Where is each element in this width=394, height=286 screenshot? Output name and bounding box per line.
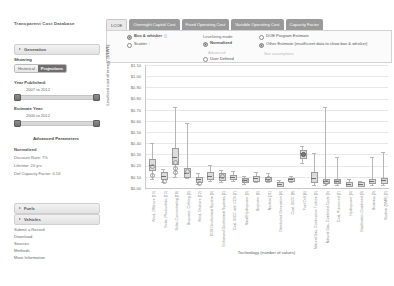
slider-track[interactable]: [14, 95, 100, 100]
accordion-vehicles-label: Vehicles: [24, 217, 41, 222]
whisker-cap: [254, 172, 258, 173]
y-axis-tick-label: $0.30: [116, 152, 141, 157]
slider-track[interactable]: [14, 121, 100, 126]
showing-option-historical[interactable]: Historical: [15, 65, 38, 73]
whisker-cap: [161, 169, 165, 170]
year-published-slider[interactable]: [14, 93, 98, 99]
estimate-year-slider[interactable]: [14, 119, 98, 125]
sidebar-accordion-generation[interactable]: Generation: [14, 44, 100, 55]
plot-type-group: Box & whisker ◫ Scatter ⁞: [127, 34, 167, 51]
y-axis-tick-label: $0.20: [116, 163, 141, 168]
y-axis-tick-label: $0.10: [116, 175, 141, 180]
options-panel: Box & whisker ◫ Scatter ⁞ Levelizing mod…: [106, 30, 392, 63]
whisker-cap: [231, 171, 235, 172]
whisker-cap: [335, 157, 339, 158]
radio-normalized[interactable]: Normalized: [203, 41, 234, 47]
whisker-cap: [254, 182, 258, 183]
radio-icon[interactable]: [259, 43, 264, 48]
link-methods[interactable]: Methods: [14, 248, 30, 253]
data-point[interactable]: [150, 173, 155, 178]
legend-other-label: Other Estimate (insufficient data to sho…: [266, 42, 367, 47]
whisker-cap: [185, 178, 189, 179]
legend-group: DOE Program Estimate Other Estimate (ins…: [259, 34, 367, 56]
y-axis-tick-label: $0.70: [116, 108, 141, 113]
median-line: [172, 157, 177, 158]
y-axis-tick-label: $0.80: [116, 96, 141, 101]
whisker-cap: [266, 182, 270, 183]
median-line: [381, 180, 386, 181]
accordion-fuels-label: Fuels: [24, 206, 35, 211]
x-axis-tick-label: Coal, Pulverized (7): [337, 191, 341, 222]
radio-icon[interactable]: [127, 35, 132, 40]
legend-other-estimate[interactable]: Other Estimate (insufficient data to sho…: [259, 42, 367, 48]
x-axis-tick-label: Wind, Offshore (13): [152, 191, 156, 222]
data-point[interactable]: [185, 169, 190, 174]
radio-icon[interactable]: [127, 43, 132, 48]
advanced-mode-label: Normalized: [14, 147, 37, 152]
median-line: [184, 173, 189, 174]
y-axis-tick-label: $0.90: [116, 85, 141, 90]
median-line: [196, 179, 201, 180]
scatter-icon: ⁞: [148, 42, 149, 46]
median-line: [230, 177, 235, 178]
advanced-parameters-header[interactable]: Advanced Parameters: [14, 136, 98, 141]
slider-handle-left[interactable]: [14, 120, 21, 127]
slider-handle-right[interactable]: [93, 94, 100, 101]
whisker-cap: [381, 185, 385, 186]
tab-overnight-capital-cost[interactable]: Overnight Capital Cost: [129, 19, 179, 30]
tab-fixed-operating-cost[interactable]: Fixed Operating Cost: [182, 19, 230, 30]
whisker-cap: [231, 181, 235, 182]
x-axis-tick-label: Biopower (6): [256, 191, 260, 211]
data-point[interactable]: [162, 179, 167, 184]
x-axis-tick-label: EGS Geothermal System (9): [210, 191, 214, 236]
radio-scatter[interactable]: Scatter ⁞: [127, 42, 167, 48]
link-submit-a-record[interactable]: Submit a Record: [14, 227, 45, 232]
x-axis-tick-label: Solar, Concentrating (18): [175, 191, 179, 230]
x-axis-tick-label: Enhanced Geothermal Systems (5): [222, 191, 226, 246]
radio-icon[interactable]: [203, 42, 208, 47]
sidebar-accordion-vehicles[interactable]: Vehicles: [14, 214, 100, 225]
legend-doe-program-estimate[interactable]: DOE Program Estimate: [259, 34, 367, 40]
slider-handle-left[interactable]: [14, 94, 21, 101]
whisker-cap: [323, 185, 327, 186]
whisker-cap: [370, 157, 374, 158]
box-rect[interactable]: [253, 176, 260, 182]
tab-capacity-factor[interactable]: Capacity Factor: [286, 19, 323, 30]
whisker-cap: [150, 143, 154, 144]
median-line: [358, 184, 363, 185]
median-line: [253, 178, 258, 179]
data-point[interactable]: [243, 178, 248, 183]
link-sources[interactable]: Sources: [14, 241, 29, 246]
radio-icon[interactable]: [259, 35, 264, 40]
plot-area: [145, 65, 389, 189]
link-download[interactable]: Download: [14, 234, 32, 239]
x-axis-tick-label: Wind, Onshore (12): [198, 191, 202, 222]
x-axis-tick-label: Nuclear (11): [268, 191, 272, 210]
levelizing-mode-header: Levelizing mode: [203, 34, 234, 39]
showing-label: Showing: [14, 57, 32, 62]
whisker-line: [325, 107, 326, 184]
x-axis-tick-label: Small Hydropower (3): [245, 191, 249, 225]
y-axis-tick-label: $0.00: [116, 186, 141, 191]
box-whisker-icon: ◫: [164, 34, 167, 38]
radio-scatter-label: Scatter: [134, 42, 147, 47]
link-see-assumptions[interactable]: See assumptions: [264, 51, 367, 56]
app-brand-title: Transparent Cost Database: [14, 21, 102, 26]
sidebar-accordion-fuels[interactable]: Fuels: [14, 203, 100, 214]
data-point[interactable]: [324, 180, 329, 185]
link-more-information[interactable]: More Information: [14, 255, 45, 260]
whisker-cap: [185, 123, 189, 124]
tab-variable-operating-cost[interactable]: Variable Operating Cost: [231, 19, 283, 30]
whisker-cap: [381, 152, 385, 153]
slider-handle-right[interactable]: [93, 120, 100, 127]
radio-box-whisker[interactable]: Box & whisker ◫: [127, 34, 167, 40]
tab-bar: LCOE Overnight Capital Cost Fixed Operat…: [106, 19, 323, 30]
doe-estimate-point[interactable]: [301, 152, 306, 157]
data-point[interactable]: [197, 181, 202, 186]
data-point[interactable]: [220, 174, 225, 179]
showing-option-projections[interactable]: Projections: [38, 65, 66, 73]
whisker-cap: [300, 163, 304, 164]
whisker-cap: [219, 170, 223, 171]
year-published-label: Year Published:: [14, 80, 46, 85]
showing-toggle-group[interactable]: Historical Projections: [14, 64, 67, 74]
